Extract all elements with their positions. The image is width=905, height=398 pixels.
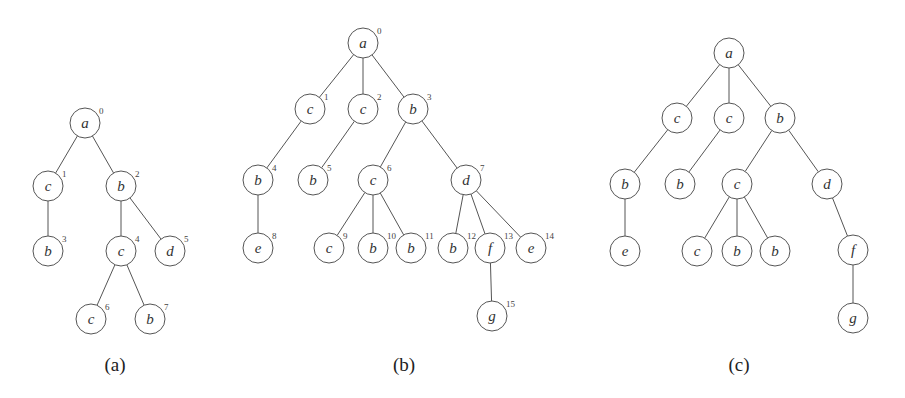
node-index: 0 — [377, 26, 382, 36]
node-index: 4 — [272, 163, 277, 173]
tree-edge — [471, 194, 485, 234]
tree-edge — [689, 130, 720, 172]
tree-node-c: c1 — [33, 169, 67, 201]
node-label: c — [88, 311, 95, 327]
tree-node-b: b — [760, 236, 790, 266]
node-index: 6 — [105, 302, 110, 312]
node-label: e — [622, 243, 629, 259]
node-label: b — [146, 311, 154, 327]
tree-node-b: b11 — [396, 231, 434, 263]
tree-node-b: b — [765, 103, 795, 133]
tree-node-e: e14 — [516, 231, 555, 263]
node-index: 7 — [164, 302, 169, 312]
tree-edge — [686, 65, 719, 107]
node-index: 3 — [427, 92, 432, 102]
node-index: 13 — [504, 231, 514, 241]
tree-a: a0c1b2b3c4d5c6b7(a) — [33, 106, 189, 376]
tree-edge — [319, 55, 353, 98]
subfigure-caption: (a) — [104, 354, 125, 376]
tree-node-c: c2 — [348, 92, 382, 124]
tree-node-c: c — [722, 169, 752, 199]
tree-node-c: c9 — [314, 231, 348, 263]
node-index: 15 — [506, 299, 516, 309]
node-label: b — [776, 110, 784, 126]
node-index: 1 — [324, 92, 329, 102]
tree-node-b: b10 — [358, 231, 397, 263]
tree-edge — [476, 191, 520, 237]
tree-edge — [267, 121, 301, 168]
tree-node-a: a0 — [348, 26, 382, 58]
tree-edge — [56, 136, 78, 173]
node-label: d — [462, 172, 470, 188]
tree-node-d: d7 — [451, 163, 485, 195]
node-label: c — [118, 243, 125, 259]
node-label: c — [360, 101, 367, 117]
node-label: e — [255, 240, 262, 256]
node-label: b — [449, 240, 457, 256]
node-label: b — [733, 243, 741, 259]
node-label: b — [771, 243, 779, 259]
tree-node-c: c4 — [106, 234, 140, 266]
node-index: 5 — [184, 234, 189, 244]
tree-node-b: b — [665, 169, 695, 199]
tree-edge — [705, 197, 730, 238]
tree-node-g: g — [838, 303, 868, 333]
node-index: 14 — [545, 231, 555, 241]
tree-c: accbbbcdecbbfg(c) — [610, 38, 868, 376]
node-index: 11 — [425, 231, 434, 241]
node-label: b — [254, 172, 262, 188]
tree-edge — [130, 198, 161, 239]
tree-edge — [380, 122, 405, 167]
node-label: b — [409, 101, 417, 117]
node-label: g — [488, 308, 496, 324]
node-index: 5 — [327, 163, 332, 173]
tree-node-b: b12 — [438, 231, 476, 263]
tree-node-e: e8 — [243, 231, 277, 263]
node-label: e — [528, 240, 535, 256]
tree-edge — [380, 193, 403, 235]
tree-node-b: b7 — [135, 302, 169, 334]
node-label: c — [726, 110, 733, 126]
node-label: c — [45, 178, 52, 194]
node-label: b — [117, 178, 125, 194]
node-index: 10 — [387, 231, 397, 241]
node-index: 7 — [480, 163, 485, 173]
tree-edge — [337, 193, 365, 236]
tree-node-f: f — [838, 235, 868, 265]
tree-edge — [789, 130, 819, 172]
tree-node-d: d5 — [155, 234, 189, 266]
tree-node-g: g15 — [477, 299, 516, 331]
tree-node-d: d — [812, 169, 842, 199]
node-label: c — [370, 172, 377, 188]
node-label: b — [621, 176, 629, 192]
tree-node-a: a — [714, 38, 744, 68]
tree-node-b: b3 — [33, 234, 67, 266]
node-index: 1 — [62, 169, 67, 179]
tree-edge — [745, 131, 772, 172]
node-index: 4 — [135, 234, 140, 244]
node-label: d — [823, 176, 831, 192]
node-label: d — [166, 243, 174, 259]
tree-node-c: c1 — [295, 92, 329, 124]
node-index: 3 — [62, 234, 67, 244]
tree-edge — [832, 198, 847, 236]
tree-b: a0c1c2b3b4b5c6d7e8c9b10b11b12f13e14g15(b… — [243, 26, 555, 376]
tree-edge — [744, 197, 767, 238]
tree-node-b: b2 — [106, 169, 140, 201]
tree-node-c: c — [682, 236, 712, 266]
node-label: g — [849, 310, 857, 326]
node-label: b — [44, 243, 52, 259]
node-index: 6 — [387, 163, 392, 173]
tree-node-e: e — [610, 236, 640, 266]
subfigure-caption: (b) — [393, 354, 415, 376]
tree-edge — [92, 136, 113, 173]
node-index: 2 — [135, 169, 140, 179]
tree-node-c: c6 — [76, 302, 110, 334]
tree-node-b: b3 — [398, 92, 432, 124]
tree-node-f: f13 — [475, 231, 514, 263]
tree-node-b: b5 — [298, 163, 332, 195]
node-label: c — [674, 110, 681, 126]
subfigure-caption: (c) — [728, 354, 749, 376]
tree-node-c: c — [714, 103, 744, 133]
node-index: 0 — [99, 106, 104, 116]
